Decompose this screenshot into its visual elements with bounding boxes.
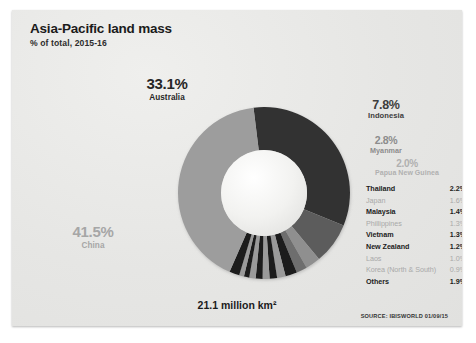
legend-row: Phillippines1.3% <box>366 219 462 231</box>
legend-row-value: 1.3% <box>450 219 462 228</box>
legend-row: Thailand2.2% <box>366 184 462 196</box>
legend-row: New Zealand1.2% <box>366 242 462 254</box>
legend-row-label: Korea (North & South) <box>366 265 436 274</box>
callout-indonesia: 7.8% Indonesia <box>332 98 440 121</box>
legend-row-value: 0.9% <box>450 265 462 274</box>
callout-australia-value: 33.1% <box>108 76 226 93</box>
page-title: Asia-Pacific land mass <box>30 21 172 36</box>
legend-row-value: 1.4% <box>450 207 462 216</box>
callout-png-value: 2.0% <box>352 158 462 169</box>
donut-hole <box>221 150 307 236</box>
callout-australia-label: Australia <box>108 93 226 102</box>
callout-australia: 33.1% Australia <box>108 76 226 102</box>
legend-row-label: New Zealand <box>366 242 409 251</box>
chart-subtitle: % of total, 2015-16 <box>30 38 107 48</box>
callout-indonesia-value: 7.8% <box>332 98 440 112</box>
legend-row-value: 1.3% <box>450 230 462 239</box>
legend-row: Malaysia1.4% <box>366 207 462 219</box>
source-label: SOURCE: IBISWORLD 01/09/15 <box>361 313 448 319</box>
infographic-card: Asia-Pacific land mass % of total, 2015-… <box>12 10 462 326</box>
legend-row-label: Thailand <box>366 184 395 193</box>
legend-row-label: Vietnam <box>366 230 393 239</box>
legend-row-value: 2.2% <box>450 184 462 193</box>
legend-row-value: 1.2% <box>450 242 462 251</box>
callout-myanmar: 2.8% Myanmar <box>334 135 438 155</box>
callout-china-label: China <box>34 241 152 250</box>
callout-myanmar-label: Myanmar <box>334 147 438 155</box>
callout-png-label: Papua New Guinea <box>352 169 462 177</box>
callout-china: 41.5% China <box>34 224 152 250</box>
legend-row: Vietnam1.3% <box>366 230 462 242</box>
legend-row-label: Japan <box>366 196 385 205</box>
legend-row: Others1.9% <box>366 277 462 289</box>
callout-papua-new-guinea: 2.0% Papua New Guinea <box>352 158 462 177</box>
legend-row-label: Others <box>366 277 389 286</box>
legend-row-label: Phillippines <box>366 219 402 228</box>
callout-myanmar-value: 2.8% <box>334 135 438 147</box>
chart-legend: Thailand2.2%Japan1.6%Malaysia1.4%Phillip… <box>366 184 462 288</box>
legend-row: Japan1.6% <box>366 196 462 208</box>
legend-row-value: 1.9% <box>450 277 462 286</box>
legend-row: Laos1.0% <box>366 254 462 266</box>
callout-indonesia-label: Indonesia <box>332 112 440 121</box>
legend-row-value: 1.0% <box>450 254 462 263</box>
legend-row-label: Malaysia <box>366 207 396 216</box>
legend-row-value: 1.6% <box>450 196 462 205</box>
legend-row-label: Laos <box>366 254 381 263</box>
donut-chart-svg <box>172 101 356 285</box>
callout-china-value: 41.5% <box>34 224 152 241</box>
total-land-mass-label: 21.1 million km² <box>12 299 462 311</box>
donut-chart <box>172 101 356 285</box>
legend-row: Korea (North & South)0.9% <box>366 265 462 277</box>
